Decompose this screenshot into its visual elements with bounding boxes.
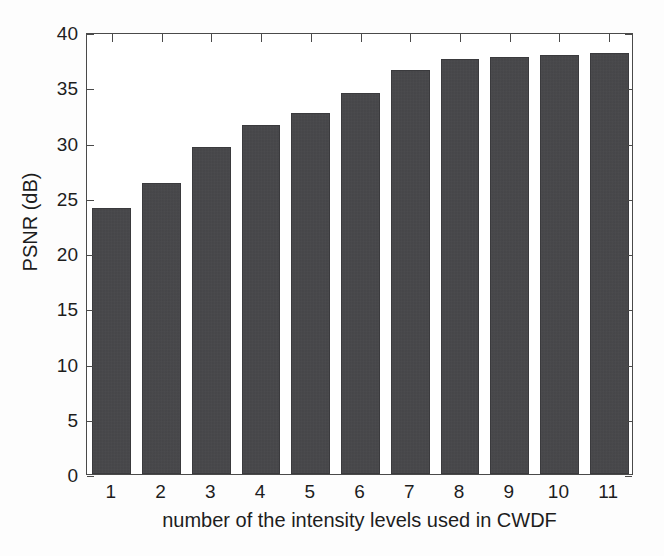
x-axis-tick-top bbox=[559, 34, 560, 42]
y-axis-tick-right bbox=[625, 476, 632, 477]
bar bbox=[92, 208, 131, 474]
bar bbox=[192, 147, 231, 474]
y-axis-tick bbox=[87, 310, 94, 311]
y-axis-tick bbox=[87, 89, 94, 90]
y-axis-tick bbox=[87, 255, 94, 256]
y-axis-tick-right bbox=[625, 34, 632, 35]
y-axis-tick-right bbox=[625, 89, 632, 90]
x-axis-tick-top bbox=[162, 34, 163, 42]
bar bbox=[142, 183, 181, 474]
y-axis-tick-right bbox=[625, 200, 632, 201]
y-axis-tick-label: 30 bbox=[34, 135, 78, 154]
x-axis-tick-top bbox=[410, 34, 411, 42]
y-axis-tick-right bbox=[625, 421, 632, 422]
y-axis-tick-label: 0 bbox=[34, 466, 78, 485]
x-axis-tick-top bbox=[460, 34, 461, 42]
bar bbox=[590, 53, 629, 474]
bar bbox=[291, 113, 330, 474]
y-axis-tick-right bbox=[625, 310, 632, 311]
bars-layer bbox=[87, 34, 632, 474]
y-axis-tick-right bbox=[625, 255, 632, 256]
x-axis-tick-label: 1 bbox=[106, 481, 117, 503]
y-axis-title: PSNR (dB) bbox=[20, 112, 40, 332]
plot-area bbox=[86, 33, 633, 475]
y-axis-tick bbox=[87, 200, 94, 201]
x-axis-tick-top bbox=[510, 34, 511, 42]
x-axis-tick-label: 9 bbox=[503, 481, 514, 503]
x-axis-tick-label: 11 bbox=[598, 481, 618, 503]
x-axis-tick-label: 5 bbox=[304, 481, 315, 503]
x-axis-tick-label: 6 bbox=[354, 481, 365, 503]
x-axis-tick-top bbox=[211, 34, 212, 42]
x-axis-tick-label: 8 bbox=[454, 481, 465, 503]
bar bbox=[490, 57, 529, 474]
bar bbox=[341, 93, 380, 474]
x-axis-tick-top bbox=[311, 34, 312, 42]
y-axis-tick-label: 15 bbox=[34, 300, 78, 319]
figure-canvas: 0510152025303540 PSNR (dB) 1234567891011… bbox=[0, 0, 664, 556]
y-axis-tick-label: 40 bbox=[34, 24, 78, 43]
y-axis-tick bbox=[87, 366, 94, 367]
x-axis-tick-label: 2 bbox=[155, 481, 166, 503]
bar bbox=[391, 70, 430, 474]
bar bbox=[540, 55, 579, 474]
x-axis-tick-top bbox=[261, 34, 262, 42]
y-axis-tick bbox=[87, 34, 94, 35]
x-axis-tick-top bbox=[361, 34, 362, 42]
x-axis-tick-label: 4 bbox=[255, 481, 266, 503]
x-axis-tick-label: 10 bbox=[548, 481, 569, 503]
y-axis-tick bbox=[87, 145, 94, 146]
y-axis-tick bbox=[87, 476, 94, 477]
x-axis-tick-top bbox=[609, 34, 610, 42]
x-axis-title: number of the intensity levels used in C… bbox=[86, 509, 633, 531]
x-axis-tick-labels: 1234567891011 bbox=[86, 481, 633, 507]
x-axis-tick-label: 7 bbox=[404, 481, 415, 503]
y-axis-tick-right bbox=[625, 145, 632, 146]
x-axis-tick-top bbox=[112, 34, 113, 42]
bar bbox=[242, 125, 281, 474]
y-axis-tick-label: 5 bbox=[34, 411, 78, 430]
x-axis-tick-label: 3 bbox=[205, 481, 216, 503]
y-axis-tick-label: 35 bbox=[34, 79, 78, 98]
y-axis-tick-right bbox=[625, 366, 632, 367]
y-axis-tick bbox=[87, 421, 94, 422]
y-axis-tick-label: 10 bbox=[34, 356, 78, 375]
bar bbox=[441, 59, 480, 474]
